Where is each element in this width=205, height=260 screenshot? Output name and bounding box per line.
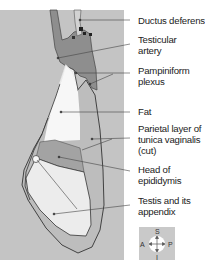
compass-inferior: I	[156, 254, 158, 260]
label-parietal-layer: Parietal layer of tunica vaginalis (cut)	[138, 123, 201, 156]
label-fat: Fat	[138, 106, 151, 117]
label-pampiniform-plexus: Pampiniform plexus	[138, 65, 190, 87]
label-testicular-artery: Testicular artery	[138, 34, 177, 56]
label-ductus-deferens: Ductus deferens	[138, 15, 205, 26]
compass-superior: S	[155, 228, 160, 235]
label-testis-appendix: Testis and its appendix	[138, 195, 191, 217]
compass-anterior: A	[140, 241, 145, 248]
compass-posterior: P	[168, 241, 173, 248]
label-head-of-epididymis: Head of epididymis	[138, 164, 181, 186]
orientation-compass: S I A P	[139, 227, 175, 260]
